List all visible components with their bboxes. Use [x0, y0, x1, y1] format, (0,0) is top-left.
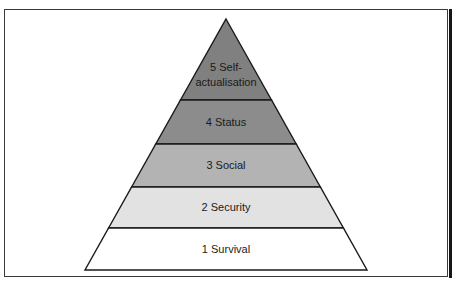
pyramid-tier-5-label-line1: 5 Self-	[210, 61, 242, 73]
pyramid-tier-5-label-line2: actualisation	[195, 76, 256, 88]
figure-page: 5 Self- actualisation 4 Status 3 Social …	[0, 0, 456, 282]
pyramid-tier-2-label: 2 Security	[202, 201, 251, 213]
pyramid-diagram: 5 Self- actualisation 4 Status 3 Social …	[0, 0, 456, 282]
pyramid-tier-4-label: 4 Status	[206, 116, 247, 128]
pyramid-tier-3-label: 3 Social	[206, 159, 245, 171]
pyramid-tier-1-label: 1 Survival	[202, 243, 250, 255]
pyramid-svg: 5 Self- actualisation 4 Status 3 Social …	[0, 0, 456, 282]
